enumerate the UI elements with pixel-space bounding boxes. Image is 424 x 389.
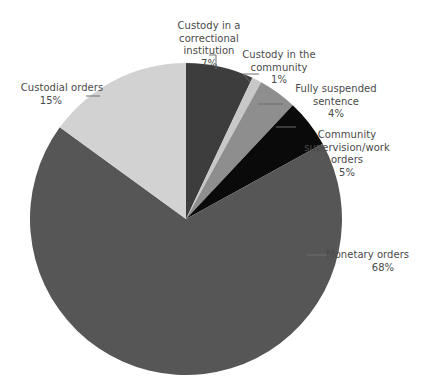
pie-label-custodial-orders-text: Custodial orders: [21, 82, 103, 93]
pie-label-community-supervision-percent: 5%: [292, 167, 402, 179]
pie-label-fully-suspended-text: Fully suspended sentence: [295, 83, 376, 106]
pie-label-monetary-orders: Monetary orders68%: [326, 237, 422, 287]
pie-label-community-supervision-text: Community supervision/work orders: [304, 129, 390, 165]
pie-label-monetary-orders-text: Monetary orders: [326, 249, 409, 260]
pie-label-monetary-orders-percent: 68%: [326, 262, 422, 274]
pie-label-custodial-orders-percent: 15%: [8, 95, 116, 107]
pie-chart-figure: Custody in a correctional institution7% …: [0, 0, 424, 389]
pie-label-community-supervision: Community supervision/work orders5%: [292, 117, 402, 191]
pie-label-custodial-orders: Custodial orders15%: [8, 70, 116, 120]
pie-label-custody-community-text: Custody in the community: [242, 49, 315, 72]
